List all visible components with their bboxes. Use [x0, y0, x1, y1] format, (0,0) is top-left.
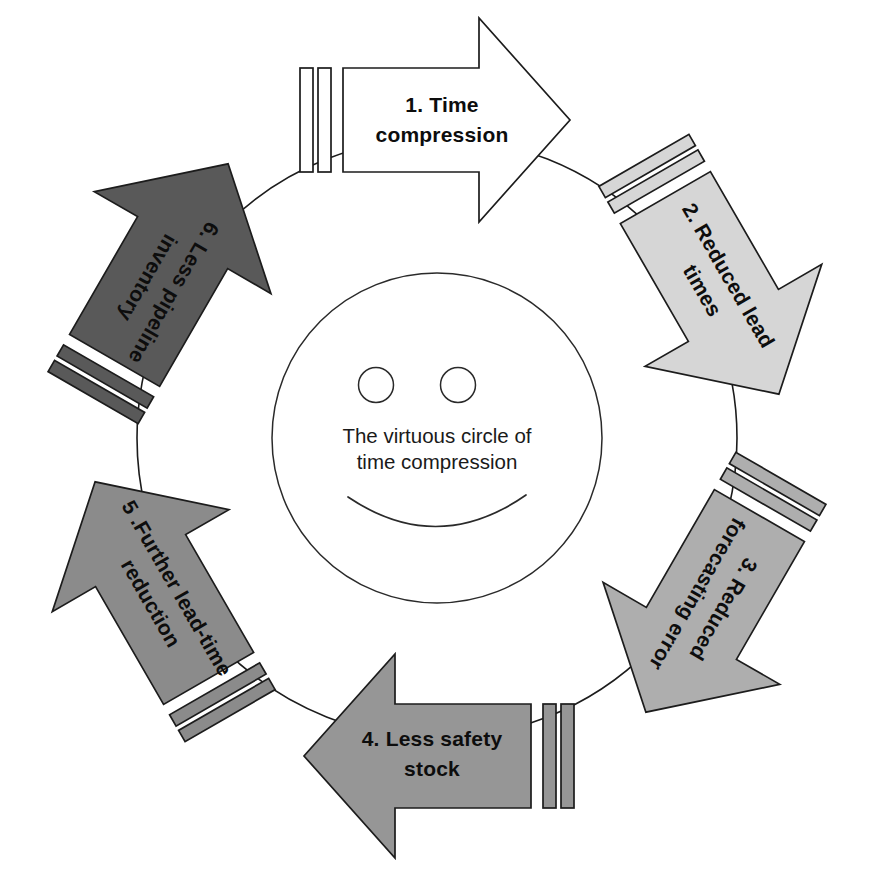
step-1-label-line1: 1. Time	[405, 93, 478, 116]
step-4-label-line1: 4. Less safety	[362, 727, 503, 750]
step-4-tail-bar-2	[543, 704, 556, 808]
step-4-tail-bar-1	[561, 704, 574, 808]
virtuous-circle-diagram: 1. Time compression 2. Reduced lead time…	[0, 0, 875, 876]
cycle-step-4[interactable]: 4. Less safety stock	[304, 654, 574, 858]
cycle-diagram-root: 1. Time compression 2. Reduced lead time…	[0, 0, 875, 876]
step-4-label-line2: stock	[404, 757, 460, 780]
step-2-arrow-shape[interactable]	[577, 147, 867, 446]
step-3-arrow-shape[interactable]	[558, 465, 848, 764]
right-eye-icon	[441, 368, 476, 403]
cycle-step-6[interactable]: 6. Less pipeline inventory	[5, 113, 317, 449]
step-1-tail-bar-1	[300, 68, 313, 172]
left-eye-icon	[359, 368, 394, 403]
cycle-step-1[interactable]: 1. Time compression	[300, 18, 570, 222]
cycle-step-2[interactable]: 2. Reduced lead times	[556, 109, 868, 445]
center-caption-line1: The virtuous circle of	[342, 424, 531, 447]
smiley-face-icon: The virtuous circle of time compression	[272, 273, 602, 603]
step-1-arrow-shape[interactable]	[343, 18, 570, 222]
cycle-step-5[interactable]: 5 .Further lead-time reduction	[7, 431, 319, 767]
step-1-tail-bar-2	[318, 68, 331, 172]
center-caption-line2: time compression	[357, 450, 518, 473]
cycle-step-3[interactable]: 3. Reduced forecasting error	[558, 427, 870, 763]
step-1-label-line2: compression	[376, 123, 509, 146]
